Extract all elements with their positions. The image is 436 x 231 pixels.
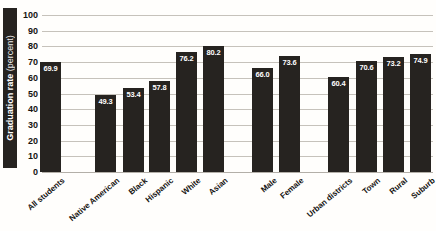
bar-value-label: 73.2	[383, 57, 404, 68]
bar-value-label: 69.9	[40, 62, 61, 73]
bar-value-label: 53.4	[123, 88, 144, 99]
bar: 60.4	[328, 77, 349, 172]
bar-value-label: 49.3	[95, 95, 116, 106]
y-tick-label: 60	[16, 73, 38, 83]
bar: 69.9	[40, 62, 61, 172]
y-tick-label: 40	[16, 104, 38, 114]
bar: 73.2	[383, 57, 404, 172]
x-category-label: White	[180, 176, 202, 197]
y-tick-label: 50	[16, 89, 38, 99]
plot-area: 100908070605040302010069.9All students49…	[0, 0, 436, 231]
y-tick-label: 0	[16, 167, 38, 177]
x-category-label: Town	[361, 176, 382, 196]
y-tick-label: 80	[16, 41, 38, 51]
bar: 80.2	[203, 46, 224, 172]
bar-value-label: 74.9	[410, 54, 431, 65]
bar: 53.4	[123, 88, 144, 172]
x-category-label: Urban districts	[305, 176, 354, 219]
y-tick-label: 100	[16, 10, 38, 20]
x-category-label: Rural	[388, 176, 409, 196]
x-category-label: Hispanic	[144, 176, 175, 204]
bar: 70.6	[356, 61, 377, 172]
x-category-label: Asian	[207, 176, 229, 197]
bar: 66.0	[252, 68, 273, 172]
x-category-label: Native American	[68, 176, 122, 223]
gridline	[42, 31, 433, 32]
y-tick-label: 90	[16, 26, 38, 36]
bar: 57.8	[149, 81, 170, 172]
y-tick-label: 70	[16, 57, 38, 67]
gridline	[42, 15, 433, 16]
graduation-rate-bar-chart: Graduation rate (percent) 10090807060504…	[0, 0, 436, 231]
x-category-label: Female	[278, 176, 305, 201]
x-category-label: All students	[25, 176, 66, 212]
x-axis-baseline	[42, 172, 433, 173]
bar-value-label: 80.2	[203, 46, 224, 57]
bar-value-label: 70.6	[356, 61, 377, 72]
bar-value-label: 76.2	[176, 52, 197, 63]
bar: 76.2	[176, 52, 197, 172]
bar-value-label: 60.4	[328, 77, 349, 88]
x-category-label: Black	[127, 176, 149, 197]
bar-value-label: 57.8	[149, 81, 170, 92]
bar: 49.3	[95, 95, 116, 172]
bar-value-label: 73.6	[279, 56, 300, 67]
bar-value-label: 66.0	[252, 68, 273, 79]
gridline	[42, 46, 433, 47]
y-tick-label: 10	[16, 151, 38, 161]
y-tick-label: 30	[16, 120, 38, 130]
bar: 73.6	[279, 56, 300, 172]
bar: 74.9	[410, 54, 431, 172]
y-tick-label: 20	[16, 136, 38, 146]
x-category-label: Male	[259, 176, 278, 194]
x-category-label: Suburb	[409, 176, 436, 201]
